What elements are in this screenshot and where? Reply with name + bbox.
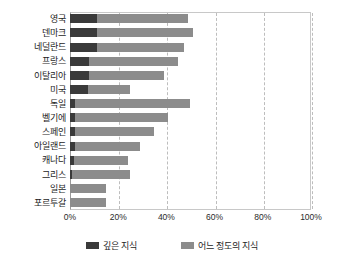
bar-segment-some (97, 14, 189, 23)
stacked-bar[interactable] (70, 71, 164, 80)
bar-segment-deep (70, 28, 97, 37)
legend-swatch-deep-icon (86, 242, 99, 249)
stacked-bar[interactable] (70, 184, 106, 193)
legend-label-some: 어느 정도의 지식 (198, 239, 258, 252)
x-axis-tick-label: 100% (300, 212, 322, 222)
bar-segment-deep (70, 85, 88, 94)
bar-segment-some (72, 170, 130, 179)
x-axis-tick-label: 20% (110, 212, 127, 222)
category-label: 일본 (50, 182, 66, 196)
category-label: 프랑스 (42, 54, 66, 68)
bar-segment-some (89, 57, 178, 66)
category-label: 미국 (50, 83, 66, 97)
chart-legend: 깊은 지식 어느 정도의 지식 (70, 238, 311, 252)
category-label: 이탈리아 (34, 69, 66, 83)
stacked-bar[interactable] (70, 113, 168, 122)
x-axis-tick-label: 60% (206, 212, 223, 222)
bar-segment-some (74, 156, 128, 165)
category-label: 독일 (50, 97, 66, 111)
stacked-bar[interactable] (70, 28, 193, 37)
legend-item-some-knowledge[interactable]: 어느 정도의 지식 (181, 239, 258, 252)
bar-segment-deep (70, 71, 89, 80)
category-axis-labels: 영국덴마크네덜란드프랑스이탈리아미국독일벨기에스페인아일랜드캐나다그리스일본포르… (0, 12, 66, 210)
stacked-bar[interactable] (70, 156, 128, 165)
legend-label-deep: 깊은 지식 (103, 239, 137, 252)
bar-segment-some (75, 113, 168, 122)
stacked-bar[interactable] (70, 85, 130, 94)
bar-segment-deep (70, 57, 89, 66)
x-axis-tick-label: 0% (64, 212, 76, 222)
bar-segment-some (70, 198, 106, 207)
category-label: 포르투갈 (34, 196, 66, 210)
stacked-bar[interactable] (70, 99, 190, 108)
stacked-bar-chart: 영국덴마크네덜란드프랑스이탈리아미국독일벨기에스페인아일랜드캐나다그리스일본포르… (0, 0, 342, 260)
stacked-bar[interactable] (70, 127, 154, 136)
category-label: 아일랜드 (34, 139, 66, 153)
bar-segment-some (75, 99, 191, 108)
legend-swatch-some-icon (181, 242, 194, 249)
stacked-bar[interactable] (70, 43, 184, 52)
stacked-bar[interactable] (70, 198, 106, 207)
category-label: 캐나다 (42, 153, 66, 167)
category-label: 벨기에 (42, 111, 66, 125)
stacked-bar[interactable] (70, 57, 178, 66)
legend-item-deep-knowledge[interactable]: 깊은 지식 (86, 239, 137, 252)
stacked-bar[interactable] (70, 142, 140, 151)
bar-segment-deep (70, 43, 97, 52)
bar-segment-deep (70, 14, 97, 23)
bar-segment-some (97, 28, 193, 37)
bar-segment-some (88, 85, 130, 94)
bar-segment-some (97, 43, 185, 52)
x-axis-tick-label: 40% (158, 212, 175, 222)
bar-segment-some (70, 184, 106, 193)
bar-segment-some (89, 71, 164, 80)
stacked-bar[interactable] (70, 14, 188, 23)
category-label: 스페인 (42, 125, 66, 139)
category-label: 그리스 (42, 168, 66, 182)
bar-segment-some (75, 127, 155, 136)
category-label: 영국 (50, 12, 66, 26)
stacked-bar[interactable] (70, 170, 130, 179)
x-axis-tick-label: 80% (254, 212, 271, 222)
category-label: 덴마크 (42, 26, 66, 40)
x-axis-tick-labels: 0%20%40%60%80%100% (70, 212, 311, 226)
gridline (312, 13, 313, 209)
category-label: 네덜란드 (34, 40, 66, 54)
bar-rows (70, 12, 311, 210)
bar-segment-some (75, 142, 140, 151)
